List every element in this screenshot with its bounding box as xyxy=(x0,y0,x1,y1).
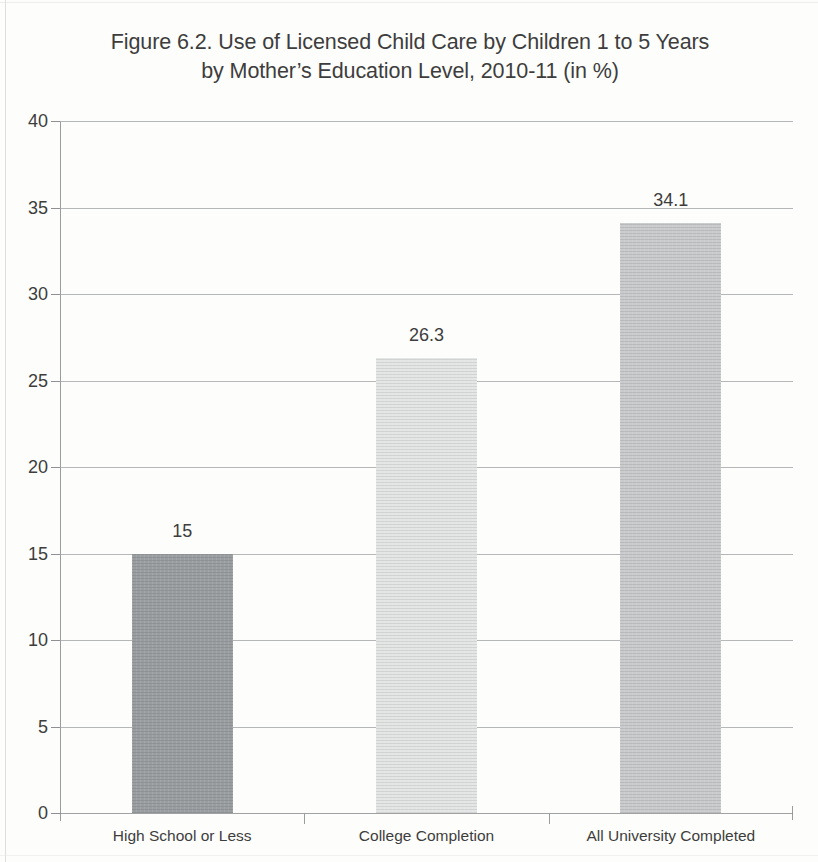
gridline-0 xyxy=(60,813,793,814)
scanned-page: Figure 6.2. Use of Licensed Child Care b… xyxy=(0,0,818,862)
y-tick-mark-5 xyxy=(51,727,60,728)
y-tick-label-30: 30 xyxy=(12,284,48,305)
y-tick-label-15: 15 xyxy=(12,543,48,564)
bar-value-label: 26.3 xyxy=(409,325,444,346)
bar-value-label: 34.1 xyxy=(653,190,688,211)
y-tick-mark-30 xyxy=(51,294,60,295)
bar xyxy=(620,223,721,813)
y-tick-label-0: 0 xyxy=(12,803,48,824)
y-tick-label-35: 35 xyxy=(12,197,48,218)
bar xyxy=(132,554,233,814)
y-tick-label-40: 40 xyxy=(12,111,48,132)
y-axis-tick-labels: 0510152025303540 xyxy=(0,0,48,862)
y-tick-mark-10 xyxy=(51,640,60,641)
bar-value-label: 15 xyxy=(172,521,192,542)
y-tick-mark-35 xyxy=(51,208,60,209)
x-tick-label: High School or Less xyxy=(113,827,252,845)
bar xyxy=(376,358,477,813)
x-tick-mark xyxy=(549,813,550,824)
y-tick-label-10: 10 xyxy=(12,630,48,651)
y-tick-mark-40 xyxy=(51,121,60,122)
y-tick-mark-0 xyxy=(51,813,60,814)
y-tick-mark-15 xyxy=(51,554,60,555)
gridline-40 xyxy=(60,121,793,122)
page-scan-edge-bottom xyxy=(0,855,818,856)
y-tick-mark-25 xyxy=(51,381,60,382)
x-tick-label: College Completion xyxy=(359,827,494,845)
page-scan-edge-top xyxy=(0,2,818,3)
x-tick-mark xyxy=(304,813,305,824)
y-tick-label-25: 25 xyxy=(12,370,48,391)
plot-area: 1526.334.1 xyxy=(60,121,793,813)
chart-title: Figure 6.2. Use of Licensed Child Care b… xyxy=(40,28,780,86)
x-tick-label: All University Completed xyxy=(586,827,755,845)
y-tick-label-5: 5 xyxy=(12,716,48,737)
y-tick-label-20: 20 xyxy=(12,457,48,478)
y-tick-mark-20 xyxy=(51,467,60,468)
